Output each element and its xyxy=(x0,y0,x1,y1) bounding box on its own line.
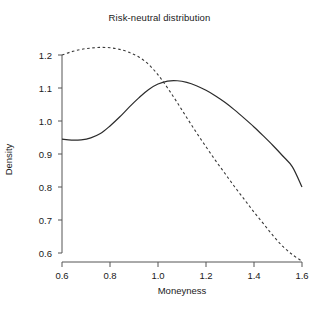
solid-density-curve xyxy=(62,81,302,187)
moneyness-tick-label: 1.0 xyxy=(151,270,164,281)
density-axis-ticks xyxy=(58,55,62,253)
moneyness-tick-label: 0.8 xyxy=(103,270,116,281)
moneyness-tick-label: 1.6 xyxy=(295,270,308,281)
x-axis-title: Moneyness xyxy=(62,285,302,296)
density-tick-label: 0.7 xyxy=(20,215,52,226)
y-axis-group xyxy=(58,55,62,253)
density-tick-label: 0.6 xyxy=(20,248,52,259)
density-tick-label: 1.0 xyxy=(20,116,52,127)
x-axis-group xyxy=(62,262,302,267)
moneyness-tick-label: 0.6 xyxy=(55,270,68,281)
moneyness-tick-label: 1.2 xyxy=(199,270,212,281)
density-tick-label: 1.2 xyxy=(20,50,52,61)
moneyness-tick-label: 1.4 xyxy=(247,270,260,281)
y-axis-title: Density xyxy=(3,144,14,176)
density-tick-label: 1.1 xyxy=(20,83,52,94)
dashed-density-curve xyxy=(62,47,302,261)
moneyness-axis-ticks xyxy=(62,262,302,267)
density-tick-label: 0.8 xyxy=(20,182,52,193)
chart-figure: Risk-neutral distribution 0.60.70.80.91.… xyxy=(0,0,319,313)
density-tick-label: 0.9 xyxy=(20,149,52,160)
